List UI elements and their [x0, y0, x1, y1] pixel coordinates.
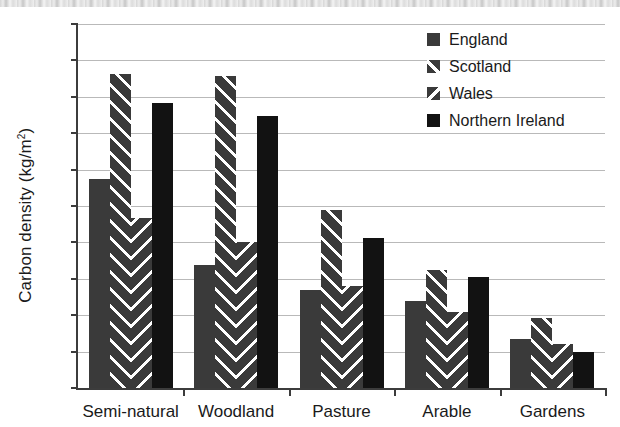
bar-wales-woodland — [236, 242, 257, 388]
legend-label-scotland: Scotland — [449, 58, 511, 76]
bar-group — [300, 24, 384, 388]
bar-england-arable — [405, 301, 426, 388]
y-axis-tick — [71, 241, 78, 243]
carbon-density-bar-chart: Carbon density (kg/m2) 05101520253035404… — [0, 0, 620, 427]
bar-scotland-semi-natural — [110, 74, 131, 388]
legend-item-scotland: Scotland — [427, 53, 617, 80]
y-axis-tick — [71, 132, 78, 134]
bar-england-pasture — [300, 290, 321, 388]
legend-swatch-northern-ireland-icon — [427, 114, 440, 127]
y-axis-tick — [71, 351, 78, 353]
bar-northern-ireland-gardens — [573, 352, 594, 388]
y-axis-tick — [71, 96, 78, 98]
legend-item-northern-ireland: Northern Ireland — [427, 107, 617, 134]
bar-scotland-arable — [426, 270, 447, 388]
x-axis-tick — [289, 388, 291, 396]
legend-label-wales: Wales — [449, 85, 493, 103]
legend-item-wales: Wales — [427, 80, 617, 107]
bar-northern-ireland-semi-natural — [152, 103, 173, 388]
bar-scotland-pasture — [321, 210, 342, 388]
y-axis-title-superscript: 2 — [16, 134, 27, 140]
bar-wales-gardens — [552, 344, 573, 388]
legend-swatch-wales-icon — [427, 87, 440, 100]
bar-group — [89, 24, 173, 388]
bar-northern-ireland-arable — [468, 277, 489, 388]
legend: England Scotland Wales Northern Ireland — [427, 26, 617, 134]
bar-wales-arable — [447, 312, 468, 388]
y-axis-title-text: Carbon density (kg/m — [16, 139, 35, 303]
y-axis-tick — [71, 23, 78, 25]
y-axis-tick — [71, 169, 78, 171]
bar-england-woodland — [194, 265, 215, 388]
y-axis-tick — [71, 59, 78, 61]
bar-northern-ireland-woodland — [257, 116, 278, 388]
legend-swatch-england-icon — [427, 33, 440, 46]
y-axis-title: Carbon density (kg/m2) — [16, 65, 37, 365]
x-axis-tick — [394, 388, 396, 396]
x-axis-tick — [500, 388, 502, 396]
bar-wales-pasture — [342, 286, 363, 388]
y-axis-tick — [71, 205, 78, 207]
legend-item-england: England — [427, 26, 617, 53]
scan-artifact-band — [0, 0, 620, 7]
y-axis-tick — [71, 314, 78, 316]
legend-label-northern-ireland: Northern Ireland — [449, 112, 565, 130]
y-axis-tick — [71, 278, 78, 280]
x-axis-label-gardens: Gardens — [477, 402, 620, 422]
bar-wales-semi-natural — [131, 218, 152, 388]
bar-northern-ireland-pasture — [363, 238, 384, 388]
legend-label-england: England — [449, 31, 508, 49]
x-axis-tick — [605, 388, 607, 396]
bar-scotland-gardens — [531, 318, 552, 388]
y-axis-tick — [71, 387, 78, 389]
x-axis-tick — [183, 388, 185, 396]
bar-england-semi-natural — [89, 179, 110, 388]
legend-swatch-scotland-icon — [427, 60, 440, 73]
bar-group — [194, 24, 278, 388]
bar-england-gardens — [510, 339, 531, 388]
y-axis-title-suffix: ) — [16, 128, 35, 134]
bar-scotland-woodland — [215, 76, 236, 388]
